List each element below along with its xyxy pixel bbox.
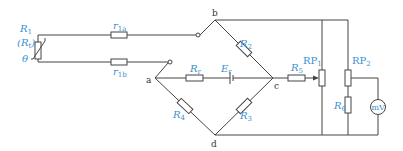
- r1-label: R1: [19, 23, 32, 36]
- switch-a: [155, 63, 168, 78]
- mv-label: mV: [372, 103, 386, 112]
- r5-branch: [273, 75, 319, 81]
- theta-label: θ: [22, 53, 28, 64]
- r5-label: R5: [290, 62, 303, 75]
- rr-label: Rr: [189, 63, 202, 76]
- node-b-label: b: [212, 8, 218, 18]
- node-a-label: a: [146, 75, 152, 85]
- circuit-diagram: R1 (Rt) θ r1a r1b R2 R3 R4: [0, 0, 403, 151]
- switch-b: [200, 20, 215, 35]
- r4-label: R4: [172, 109, 186, 122]
- rt-label: (Rt): [17, 37, 35, 50]
- potentiometer-rp2: [345, 20, 378, 135]
- r1a-label: r1a: [113, 20, 126, 33]
- rp2-label: RP2: [352, 55, 371, 68]
- lead-wire-b: [38, 59, 172, 65]
- node-c-label: c: [274, 81, 279, 91]
- potentiometer-rp1: [319, 20, 325, 135]
- node-d-label: d: [211, 139, 217, 149]
- r1b-label: r1b: [113, 66, 127, 79]
- rp1-label: RP1: [303, 55, 322, 68]
- r3-label: R3: [239, 110, 252, 123]
- er-label: Er: [220, 63, 232, 76]
